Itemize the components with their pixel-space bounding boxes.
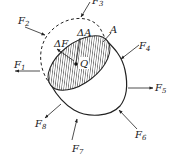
force-f4-arrow [121, 45, 139, 59]
force-f8-label: F8 [34, 118, 47, 131]
delta-f-label: ΔF [53, 38, 69, 49]
force-f3-arrow [81, 2, 90, 17]
force-f7-label: F7 [71, 143, 84, 156]
force-f8-arrow [45, 104, 61, 118]
force-f4-label: F4 [138, 40, 150, 53]
force-f2-label: F2 [17, 15, 30, 28]
delta-a-label: ΔA [76, 27, 91, 38]
force-f3-label: F3 [91, 0, 104, 8]
force-f2-arrow [25, 27, 45, 35]
force-f6-arrow [119, 110, 137, 129]
force-f6-label: F6 [134, 129, 147, 142]
free-body-diagram: Q ΔA ΔF A F1 F2 F3 F4 F5 F6 F7 F8 [0, 0, 170, 156]
force-f7-arrow [72, 119, 77, 140]
point-q-label: Q [80, 58, 88, 69]
force-f1-label: F1 [13, 59, 25, 72]
section-a-label: A [109, 24, 117, 35]
force-f5-label: F5 [154, 82, 167, 95]
